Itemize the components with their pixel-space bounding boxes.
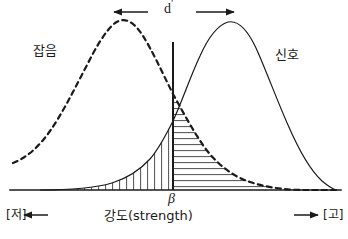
axis-high-label: [고]: [323, 209, 343, 221]
sdt-figure: 잡음 신호 d′ β 강도(strength) [저] [고]: [0, 0, 348, 239]
dprime-prime-mark: ′: [171, 0, 174, 10]
dprime-letter: d: [164, 1, 171, 16]
region-noise-above-criterion: [173, 94, 305, 190]
x-axis-label: 강도(strength): [104, 209, 193, 222]
dprime-label: d′: [164, 2, 174, 16]
signal-curve-label: 신호: [275, 48, 299, 61]
axis-low-label: [저]: [6, 209, 26, 221]
noise-curve-label: 잡음: [33, 44, 57, 57]
criterion-beta-label: β: [168, 192, 175, 206]
